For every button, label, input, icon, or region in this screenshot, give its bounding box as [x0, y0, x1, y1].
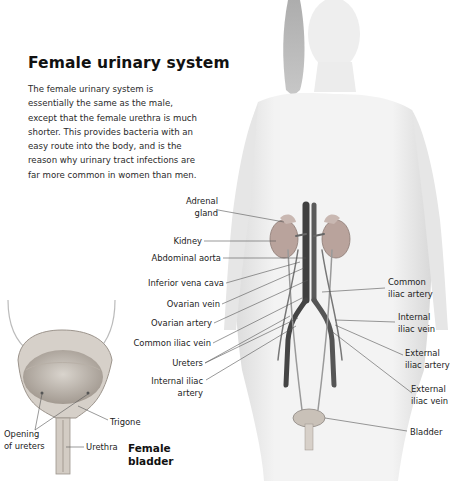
- label-adrenal-gland: Adrenal gland: [186, 195, 218, 219]
- label-opening-of-ureters: Opening of ureters: [4, 428, 45, 452]
- label-ovarian-vein: Ovarian vein: [167, 298, 220, 310]
- label-bladder: Bladder: [410, 426, 442, 438]
- anatomical-illustration: [0, 0, 470, 481]
- label-common-iliac-artery: Common iliac artery: [388, 276, 433, 300]
- bladder-inset-title: Female bladder: [128, 442, 174, 468]
- intro-paragraph: The female urinary system is essentially…: [28, 82, 200, 182]
- label-urethra: Urethra: [86, 441, 118, 453]
- label-ovarian-artery: Ovarian artery: [151, 317, 212, 329]
- label-ureters: Ureters: [172, 357, 203, 369]
- label-internal-iliac-artery: Internal iliac artery: [151, 375, 203, 399]
- label-abdominal-aorta: Abdominal aorta: [151, 252, 221, 264]
- label-internal-iliac-vein: Internal iliac vein: [398, 311, 435, 335]
- page-title: Female urinary system: [28, 54, 230, 72]
- label-kidney: Kidney: [173, 235, 202, 247]
- label-external-iliac-artery: External iliac artery: [405, 347, 450, 371]
- label-inferior-vena-cava: Inferior vena cava: [148, 277, 224, 289]
- label-common-iliac-vein: Common iliac vein: [133, 337, 211, 349]
- label-external-iliac-vein: External iliac vein: [411, 383, 448, 407]
- label-trigone: Trigone: [110, 416, 141, 428]
